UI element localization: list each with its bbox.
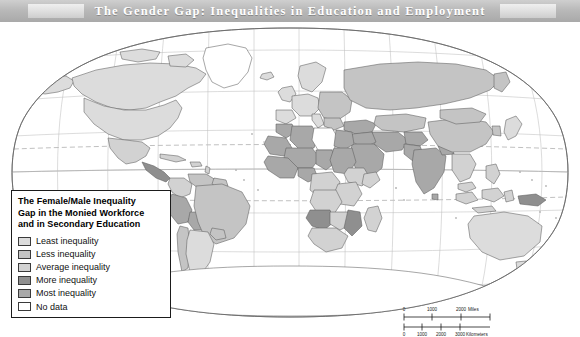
map-legend: The Female/Male Inequality Gap in the Mo… xyxy=(11,190,171,318)
legend-swatch-average-inequality xyxy=(18,263,31,272)
scale-miles-tick-2: 2000 xyxy=(456,307,467,312)
region-new-zealand xyxy=(554,248,566,262)
legend-swatch-least-inequality xyxy=(18,237,31,246)
scale-km-unit: Kilometers xyxy=(466,332,488,337)
scale-km-tick-1: 1000 xyxy=(417,332,428,337)
scale-bar-miles: 0 1000 2000 Miles xyxy=(403,307,490,321)
legend-label-average-inequality: Average inequality xyxy=(36,262,110,272)
region-korea xyxy=(492,126,501,136)
legend-swatch-more-inequality xyxy=(18,276,31,285)
scale-km-tick-0: 0 xyxy=(403,332,406,337)
legend-swatch-no-data xyxy=(18,302,31,311)
legend-title: The Female/Male Inequality Gap in the Mo… xyxy=(18,196,165,231)
legend-label-less-inequality: Less inequality xyxy=(36,249,96,259)
legend-item-average-inequality[interactable]: Average inequality xyxy=(18,261,165,274)
region-sulawesi xyxy=(504,190,514,202)
legend-title-line-1: The Female/Male Inequality xyxy=(18,196,165,208)
scale-bar: 0 1000 2000 Miles 0 1000 2000 3000 Kil xyxy=(398,305,548,337)
legend-item-most-inequality[interactable]: Most inequality xyxy=(18,287,165,300)
legend-item-no-data[interactable]: No data xyxy=(18,300,165,313)
legend-swatch-less-inequality xyxy=(18,250,31,259)
legend-swatch-most-inequality xyxy=(18,289,31,298)
legend-title-line-2: Gap in the Monied Workforce xyxy=(18,208,165,220)
map-canvas: 0 1000 2000 Miles 0 1000 2000 3000 Kil xyxy=(0,22,580,327)
legend-label-least-inequality: Least inequality xyxy=(36,236,99,246)
scale-km-tick-3: 3000 xyxy=(455,332,466,337)
region-sri-lanka xyxy=(432,194,438,200)
region-hispaniola xyxy=(190,162,202,167)
legend-item-less-inequality[interactable]: Less inequality xyxy=(18,248,165,261)
region-caucasus-centralasia xyxy=(374,114,426,132)
region-new-zealand-south xyxy=(550,262,560,272)
legend-item-more-inequality[interactable]: More inequality xyxy=(18,274,165,287)
legend-label-most-inequality: Most inequality xyxy=(36,288,96,298)
scale-miles-unit: Miles xyxy=(468,307,479,312)
scale-miles-tick-0: 0 xyxy=(403,307,406,312)
legend-label-more-inequality: More inequality xyxy=(36,275,97,285)
legend-item-least-inequality[interactable]: Least inequality xyxy=(18,235,165,248)
page-title: The Gender Gap: Inequalities in Educatio… xyxy=(0,0,580,22)
region-libya xyxy=(312,128,338,150)
legend-title-line-3: and in Secondary Education xyxy=(18,219,165,231)
title-banner: The Gender Gap: Inequalities in Educatio… xyxy=(0,0,580,22)
scale-km-tick-2: 2000 xyxy=(436,332,447,337)
scale-miles-tick-1: 1000 xyxy=(427,307,438,312)
scale-bar-kilometers: 0 1000 2000 3000 Kilometers xyxy=(403,324,490,337)
legend-label-no-data: No data xyxy=(36,302,68,312)
